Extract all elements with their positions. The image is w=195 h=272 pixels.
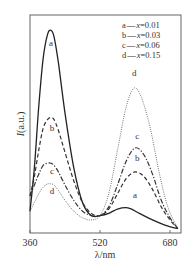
- legend-entry-d: d—x=0.15: [122, 50, 160, 60]
- curve-label-a: a: [133, 190, 137, 200]
- curve-label-d: d: [50, 186, 55, 196]
- y-axis-label: I(a.u.): [15, 112, 27, 137]
- x-axis-label: λ/nm: [95, 249, 116, 260]
- curve-label-c: c: [50, 166, 54, 176]
- emission-spectra-chart: 360520680 abcddcba a—x=0.01 b—x=0.03 c—x…: [0, 0, 195, 272]
- legend-entry-c: c—x=0.06: [122, 40, 160, 50]
- legend-entry-b: b—x=0.03: [122, 30, 160, 40]
- legend-entry-a: a—x=0.01: [122, 20, 160, 30]
- curve-label-a: a: [49, 38, 53, 48]
- x-tick-label: 360: [23, 237, 38, 248]
- curve-label-b: b: [50, 123, 55, 133]
- curve-label-d: d: [132, 68, 137, 78]
- curve-d: [30, 88, 178, 229]
- curve-label-c: c: [135, 131, 139, 141]
- x-tick-label: 520: [93, 237, 108, 248]
- legend: a—x=0.01 b—x=0.03 c—x=0.06 d—x=0.15: [122, 20, 160, 60]
- curve-labels: abcddcba: [49, 38, 140, 201]
- x-tick-label: 680: [163, 237, 178, 248]
- curve-label-b: b: [135, 153, 140, 163]
